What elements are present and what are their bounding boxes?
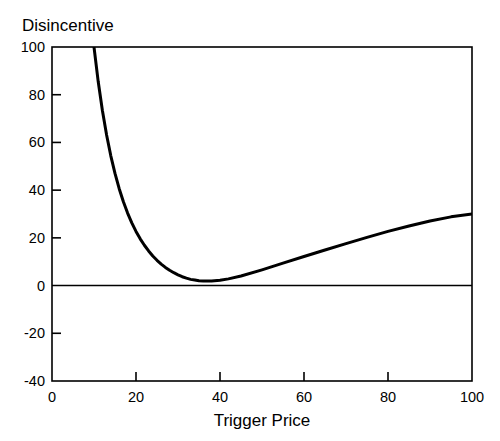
x-tick-label: 80 [380,389,396,405]
plot-frame [52,47,472,381]
chart-canvas: Disincentive -40-20020406080100 02040608… [0,0,500,441]
y-tick-label: -20 [24,325,45,341]
data-curve-disincentive [92,40,472,281]
x-tick-label: 100 [460,389,484,405]
y-axis-title: Disincentive [22,16,114,35]
x-axis-tick-marks [136,372,388,381]
y-axis-tick-marks [52,95,61,334]
y-axis-tick-labels: -40-20020406080100 [21,39,45,389]
y-tick-label: 40 [29,182,45,198]
y-tick-label: 100 [21,39,45,55]
y-tick-label: 20 [29,230,45,246]
chart-figure: Disincentive -40-20020406080100 02040608… [0,0,500,441]
y-tick-label: 80 [29,87,45,103]
data-series-group [92,40,472,281]
y-tick-label: -40 [24,373,45,389]
x-tick-label: 40 [212,389,228,405]
y-tick-label: 0 [37,278,45,294]
x-tick-label: 0 [48,389,56,405]
x-tick-label: 60 [296,389,312,405]
x-axis-tick-labels: 020406080100 [48,389,484,405]
x-tick-label: 20 [128,389,144,405]
y-tick-label: 60 [29,134,45,150]
x-axis-title: Trigger Price [214,411,311,430]
